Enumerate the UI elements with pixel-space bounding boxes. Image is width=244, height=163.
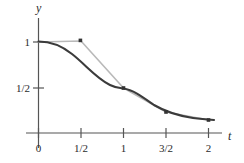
x-tick-label-half: 1/2: [74, 143, 88, 154]
data-point-marker: [164, 110, 168, 114]
data-point-marker: [207, 118, 211, 122]
y-axis-label: y: [36, 2, 41, 14]
x-tick-label-1: 1: [121, 143, 127, 154]
data-point-markers: [79, 39, 211, 122]
figure-container: y t 1 1/2 0 1/2 1 3/2 2: [0, 0, 244, 163]
euler-approximation-polyline: [39, 41, 209, 120]
x-tick-label-2: 2: [206, 143, 212, 154]
y-tick-label-half: 1/2: [3, 83, 30, 94]
x-tick-label-0: 0: [36, 143, 42, 154]
y-tick-label-1: 1: [8, 37, 30, 48]
x-axis-label: t: [228, 130, 231, 142]
exact-solution-curve: [39, 42, 215, 121]
x-tick-label-three-halves: 3/2: [159, 143, 173, 154]
plot-area: [0, 0, 244, 163]
data-point-marker: [122, 86, 126, 90]
data-point-marker: [79, 39, 83, 43]
